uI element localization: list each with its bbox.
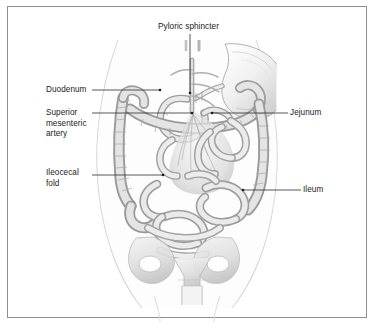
point-marker-duodenum (159, 89, 162, 92)
label-ileocecal-fold: Ileocecal fold (46, 168, 79, 189)
point-marker-pyloric-sphincter (189, 92, 192, 95)
label-ileum: Ileum (303, 185, 323, 196)
figure-container: Pyloric sphincter Duodenum Superior mese… (0, 0, 374, 325)
point-marker-superior-mesenteric-artery (191, 112, 194, 115)
point-marker-ileocecal-fold (162, 174, 165, 177)
label-superior-mesenteric-artery: Superior mesenteric artery (46, 108, 87, 140)
anatomy-illustration (0, 0, 374, 325)
point-marker-jejunum (211, 112, 214, 115)
label-pyloric-sphincter: Pyloric sphincter (158, 22, 219, 33)
point-marker-ileum (242, 189, 245, 192)
label-duodenum: Duodenum (46, 85, 86, 96)
label-jejunum: Jejunum (290, 108, 321, 119)
